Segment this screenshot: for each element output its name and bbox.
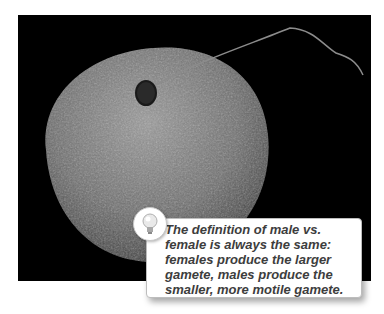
callout-line: gamete, males produce the	[165, 267, 357, 282]
callout-text: The definition of male vs. female is alw…	[165, 222, 357, 297]
callout-line: females produce the larger	[165, 252, 357, 267]
lightbulb-icon	[133, 207, 167, 241]
callout-box: The definition of male vs. female is alw…	[146, 218, 362, 298]
callout-line: smaller, more motile gamete.	[165, 282, 357, 297]
callout-line: female is always the same:	[165, 237, 357, 252]
callout-line: The definition of male vs.	[165, 222, 357, 237]
